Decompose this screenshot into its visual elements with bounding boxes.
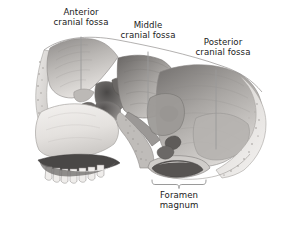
maxilla: [35, 104, 118, 158]
label-foramen-line2: magnum: [143, 200, 215, 210]
ethmoid-region: [74, 89, 94, 102]
label-middle-line1: Middle: [102, 20, 194, 30]
cranial-fossae-figure: Anterior cranial fossa Middle cranial fo…: [0, 0, 290, 234]
label-posterior-line2: cranial fossa: [174, 47, 272, 57]
label-foramen-line1: Foramen: [143, 190, 215, 200]
foramen-magnum-bracket: [152, 180, 206, 189]
label-foramen-magnum: Foramen magnum: [143, 190, 215, 211]
petrous-temporal-bone: [147, 94, 184, 136]
label-posterior-cranial-fossa: Posterior cranial fossa: [174, 37, 272, 58]
label-posterior-line1: Posterior: [174, 37, 272, 47]
skull-bone-mass: [35, 37, 266, 183]
label-anterior-line1: Anterior: [36, 7, 126, 17]
